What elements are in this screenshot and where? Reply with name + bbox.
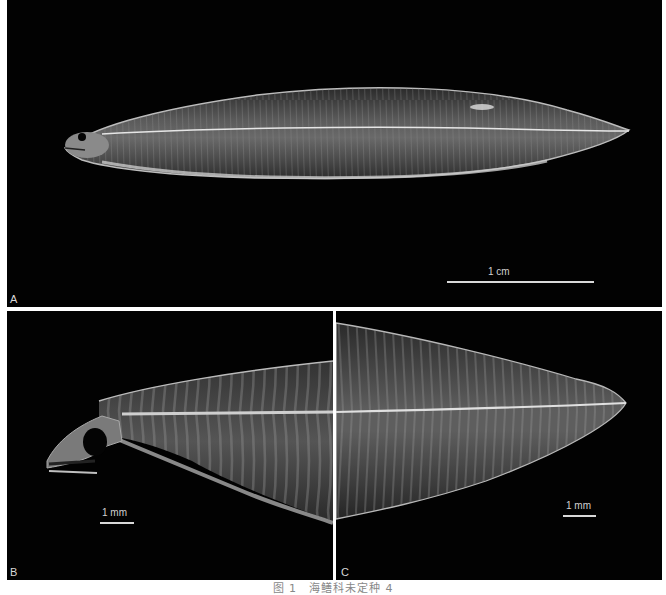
- specimen-whole-body-image: [7, 0, 662, 307]
- panel-label-a: A: [10, 294, 17, 305]
- panel-b-head-detail: 1 mm B: [7, 311, 333, 580]
- scale-bar-label-b: 1 mm: [102, 508, 127, 518]
- panel-a-whole-specimen: 1 cm A: [7, 0, 662, 307]
- panel-label-b: B: [10, 567, 17, 578]
- scale-bar-label-c: 1 mm: [566, 501, 591, 511]
- scale-bar-c: [563, 515, 596, 517]
- panel-c-tail-detail: 1 mm C: [336, 311, 662, 580]
- scale-bar-label-a: 1 cm: [488, 267, 510, 277]
- panel-label-c: C: [341, 567, 349, 578]
- scale-bar-a: [447, 281, 594, 283]
- figure-caption: 图 1 海鳝科未定种 4: [0, 583, 666, 595]
- specimen-tail-image: [336, 311, 662, 580]
- specimen-head-image: [7, 311, 333, 580]
- scale-bar-b: [100, 522, 134, 524]
